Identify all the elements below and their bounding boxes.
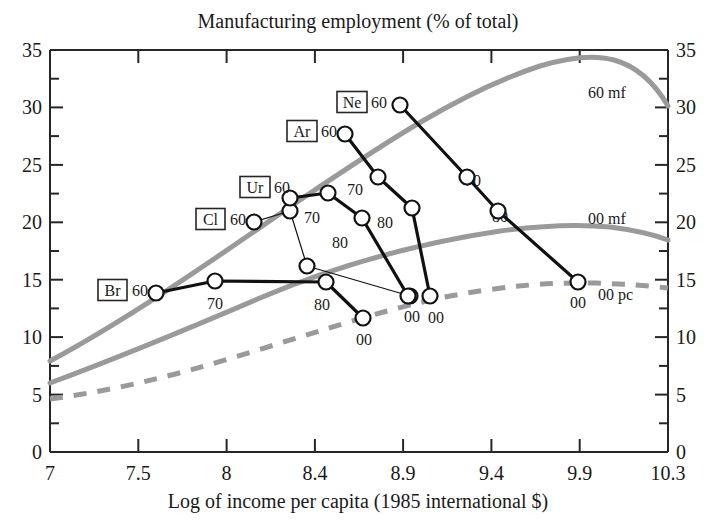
series-cl-point-60[interactable] — [247, 215, 262, 230]
curve-label-00mf: 00 mf — [588, 210, 626, 227]
x-tick-7: 7 — [45, 462, 55, 484]
y-tick-5: 5 — [32, 384, 42, 406]
page-title: Manufacturing employment (% of total) — [197, 10, 518, 33]
series-cl-label-00: 00 — [404, 308, 420, 325]
series-br-name: Br — [105, 282, 122, 299]
series-br-point-70[interactable] — [208, 274, 223, 289]
series-ne-name: Ne — [343, 94, 362, 111]
series-br-point-80[interactable] — [319, 275, 334, 290]
series-br-label-70: 70 — [207, 295, 223, 312]
series-cl-point-80[interactable] — [300, 259, 315, 274]
series-ar-point-60[interactable] — [338, 127, 353, 142]
y-tick-right-30: 30 — [676, 96, 696, 118]
y-tick-25: 25 — [22, 154, 42, 176]
y-tick-right-10: 10 — [676, 326, 696, 348]
series-cl-name: Cl — [203, 211, 219, 228]
y-tick-right-15: 15 — [676, 269, 696, 291]
curve-label-60mf: 60 mf — [588, 84, 626, 101]
series-br-label-60: 60 — [132, 282, 148, 299]
series-ar-point-70[interactable] — [371, 170, 386, 185]
series-ar-name: Ar — [294, 123, 312, 140]
series-br-point-60[interactable] — [149, 286, 164, 301]
x-tick-8-9: 8.9 — [391, 462, 416, 484]
series-ar-label-70: 70 — [347, 181, 363, 198]
series-ur-label-60: 60 — [274, 179, 290, 196]
series-ur-name: Ur — [247, 179, 265, 196]
x-tick-9-4: 9.4 — [479, 462, 504, 484]
series-ur-point-00[interactable] — [401, 289, 416, 304]
y-tick-10: 10 — [22, 326, 42, 348]
y-tick-right-25: 25 — [676, 154, 696, 176]
series-ne-point-80[interactable] — [491, 204, 506, 219]
series-ar-point-80[interactable] — [405, 201, 420, 216]
series-ne-point-00[interactable] — [571, 275, 586, 290]
y-tick-right-20: 20 — [676, 211, 696, 233]
series-ar-label-60: 60 — [321, 123, 337, 140]
x-tick-9-9: 9.9 — [567, 462, 592, 484]
series-cl-label-60: 60 — [230, 211, 246, 228]
chart-figure: Manufacturing employment (% of total) — [0, 0, 716, 524]
series-ne-point-60[interactable] — [393, 98, 408, 113]
x-axis-title: Log of income per capita (1985 internati… — [168, 490, 548, 513]
series-ar-label-80: 80 — [377, 214, 393, 231]
series-br-label-80: 80 — [314, 296, 330, 313]
series-ar-point-00[interactable] — [423, 289, 438, 304]
series-ur-point-80[interactable] — [355, 211, 370, 226]
series-ur-label-70: 70 — [304, 209, 320, 226]
series-ur-point-70[interactable] — [321, 186, 336, 201]
series-ne-point-70[interactable] — [460, 170, 475, 185]
y-tick-0: 0 — [32, 441, 42, 463]
x-tick-10-3: 10.3 — [651, 462, 686, 484]
curve-label-00pc: 00 pc — [598, 286, 633, 304]
y-tick-right-0: 0 — [676, 441, 686, 463]
x-tick-8-4: 8.4 — [302, 462, 327, 484]
y-tick-right-35: 35 — [676, 39, 696, 61]
series-ar-label-00: 00 — [428, 309, 444, 326]
series-ne-label-60: 60 — [371, 94, 387, 111]
chart-svg: Manufacturing employment (% of total) — [0, 0, 716, 524]
series-ne-label-00: 00 — [570, 294, 586, 311]
y-tick-right-5: 5 — [676, 384, 686, 406]
series-ur-label-80: 80 — [332, 234, 348, 251]
x-tick-8: 8 — [222, 462, 232, 484]
y-tick-15: 15 — [22, 269, 42, 291]
x-tick-7-5: 7.5 — [126, 462, 151, 484]
y-tick-20: 20 — [22, 211, 42, 233]
series-br-point-00[interactable] — [356, 311, 371, 326]
series-br-label-00: 00 — [356, 331, 372, 348]
y-tick-30: 30 — [22, 96, 42, 118]
y-tick-35: 35 — [22, 39, 42, 61]
